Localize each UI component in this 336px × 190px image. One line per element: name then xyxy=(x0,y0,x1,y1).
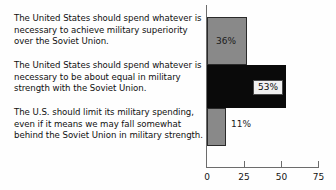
bar-value-label-limit-spending: 11% xyxy=(231,119,251,129)
x-axis-tick-label-0: 0 xyxy=(204,172,210,182)
bar-value-label-superiority: 36% xyxy=(216,36,236,46)
bar-chart-figure: The United States should spend whatever … xyxy=(0,0,336,190)
bar-limit-spending xyxy=(207,108,226,146)
bar-value-label-equal-strength: 53% xyxy=(253,80,283,95)
x-axis-tick-25 xyxy=(244,161,245,168)
x-axis-tick-50 xyxy=(281,161,282,168)
x-axis-tick-label-25: 25 xyxy=(238,172,249,182)
x-axis-tick-75 xyxy=(318,161,319,168)
plot-area: 0 25 50 75 36% 53% 11% xyxy=(0,0,336,190)
x-axis-line xyxy=(206,167,319,168)
x-axis-tick-0 xyxy=(206,161,207,168)
x-axis-tick-label-75: 75 xyxy=(313,172,324,182)
x-axis-tick-label-50: 50 xyxy=(276,172,287,182)
